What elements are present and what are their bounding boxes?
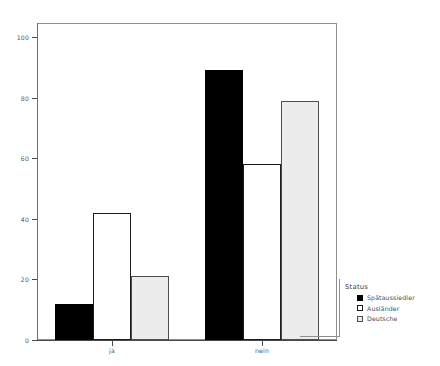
legend: Status SpätaussiedlerAusländerDeutsche xyxy=(345,283,440,325)
y-axis-tick-label: 80 xyxy=(21,94,29,101)
legend-swatch-icon xyxy=(357,316,363,322)
x-axis-tick-label: ja xyxy=(109,347,115,354)
y-axis-tick xyxy=(32,219,37,220)
legend-item-label: Deutsche xyxy=(367,315,397,322)
bar-chart: 020406080100 janein Status Spätaussiedle… xyxy=(0,0,440,366)
legend-swatch-icon xyxy=(357,295,363,301)
legend-items: SpätaussiedlerAusländerDeutsche xyxy=(345,293,440,323)
bar xyxy=(93,213,131,340)
legend-item: Ausländer xyxy=(357,304,440,313)
legend-item-label: Spätaussiedler xyxy=(367,294,415,301)
legend-item-label: Ausländer xyxy=(367,305,399,312)
legend-item: Deutsche xyxy=(357,314,440,323)
y-axis-tick-label: 20 xyxy=(21,276,29,283)
x-axis-line xyxy=(37,340,337,341)
y-axis-tick-label: 60 xyxy=(21,155,29,162)
legend-title: Status xyxy=(345,283,440,291)
y-axis-tick-label: 40 xyxy=(21,215,29,222)
bar xyxy=(131,276,169,340)
y-axis-line xyxy=(37,23,38,341)
y-axis-tick xyxy=(32,98,37,99)
y-axis-tick xyxy=(32,158,37,159)
y-axis-tick-label: 100 xyxy=(17,34,29,41)
legend-swatch-icon xyxy=(357,305,363,311)
legend-divider-horizontal xyxy=(300,336,340,337)
y-axis-tick-label: 0 xyxy=(25,337,29,344)
bar xyxy=(205,70,243,340)
bar xyxy=(281,101,319,340)
y-axis-tick xyxy=(32,37,37,38)
x-axis-tick xyxy=(262,341,263,346)
x-axis-tick xyxy=(112,341,113,346)
legend-divider-vertical xyxy=(339,279,340,337)
x-axis-tick-label: nein xyxy=(255,347,269,354)
bar xyxy=(55,304,93,340)
legend-item: Spätaussiedler xyxy=(357,293,440,302)
y-axis-tick xyxy=(32,279,37,280)
bar xyxy=(243,164,281,340)
